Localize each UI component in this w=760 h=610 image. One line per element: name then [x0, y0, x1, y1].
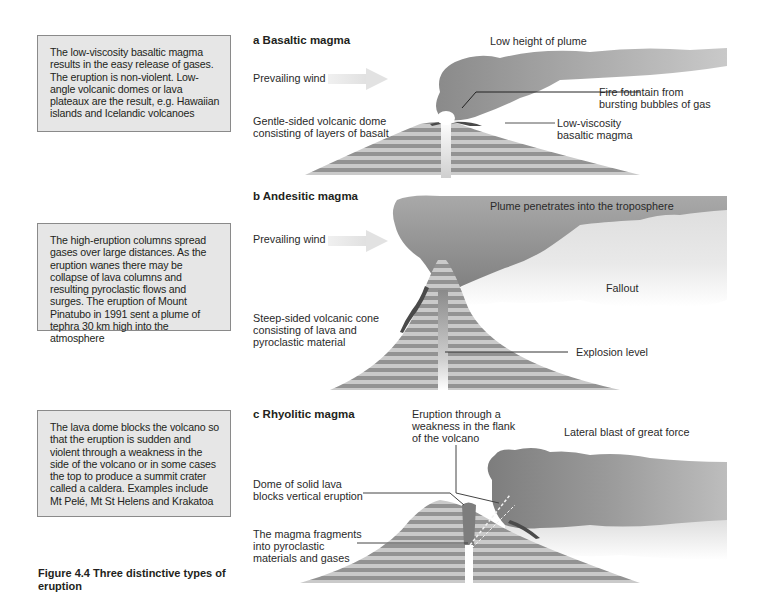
description-text: The high-eruption columns spread gases o… — [50, 234, 206, 344]
lateral-blast-cloud — [488, 448, 727, 529]
label-solid-dome-2: blocks vertical eruption — [253, 490, 363, 503]
label-fire-fountain-2: bursting bubbles of gas — [599, 98, 711, 111]
label-magma-fragments-2: into pyroclastic — [253, 540, 324, 553]
label-flank-eruption-3: of the volcano — [412, 432, 479, 445]
label-prevailing-wind-b: Prevailing wind — [253, 233, 326, 246]
label-troposphere: Plume penetrates into the troposphere — [490, 200, 674, 213]
label-prevailing-wind-a: Prevailing wind — [253, 72, 326, 85]
description-text: The lava dome blocks the volcano so that… — [50, 421, 219, 507]
label-flank-eruption-1: Eruption through a — [412, 408, 501, 421]
description-box-rhyolitic: The lava dome blocks the volcano so that… — [37, 410, 231, 517]
andesitic-volcano-illustration — [320, 196, 727, 396]
figure-caption: Figure 4.4 Three distinctive types of er… — [38, 567, 238, 592]
rhyolitic-volcano-illustration — [290, 445, 727, 590]
label-steep-cone-3: pyroclastic material — [253, 336, 345, 349]
label-flank-eruption-2: weakness in the flank — [412, 420, 515, 433]
label-low-viscosity-2: basaltic magma — [557, 129, 633, 142]
label-fallout: Fallout — [606, 282, 638, 295]
basaltic-volcano-illustration — [300, 48, 727, 178]
description-text: The low-viscosity basaltic magma results… — [50, 46, 219, 119]
wind-arrow-b — [328, 230, 388, 252]
label-lateral-blast: Lateral blast of great force — [564, 426, 689, 439]
label-explosion-level: Explosion level — [576, 346, 648, 359]
label-magma-fragments-1: The magma fragments — [253, 528, 362, 541]
heading-andesitic: b Andesitic magma — [253, 190, 358, 202]
description-box-andesitic: The high-eruption columns spread gases o… — [37, 223, 231, 331]
label-low-viscosity-1: Low-viscosity — [557, 117, 621, 130]
label-low-plume: Low height of plume — [490, 35, 587, 48]
description-box-basaltic: The low-viscosity basaltic magma results… — [37, 35, 231, 132]
heading-rhyolitic: c Rhyolitic magma — [253, 408, 355, 420]
label-magma-fragments-3: materials and gases — [253, 552, 350, 565]
label-gentle-dome-1: Gentle-sided volcanic dome — [253, 115, 386, 128]
label-fire-fountain-1: Fire fountain from — [599, 86, 684, 99]
heading-basaltic: a Basaltic magma — [253, 34, 350, 46]
label-steep-cone-2: consisting of lava and — [253, 324, 357, 337]
label-gentle-dome-2: consisting of layers of basalt — [253, 127, 389, 140]
wind-arrow-a — [328, 68, 388, 90]
label-steep-cone-1: Steep-sided volcanic cone — [253, 312, 379, 325]
label-solid-dome-1: Dome of solid lava — [253, 478, 342, 491]
